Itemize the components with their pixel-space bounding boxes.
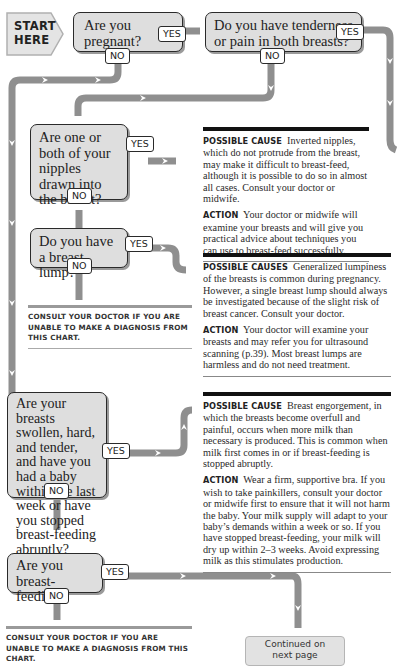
q5-yes-tag[interactable]: YES <box>102 443 130 459</box>
question-breastfeeding[interactable]: Are you breast-feeding? <box>7 553 103 593</box>
consult-rule-top <box>28 305 192 308</box>
action-paragraph: Action Your doctor will examine your bre… <box>203 324 391 371</box>
start-here-marker: START HERE <box>6 12 64 56</box>
cause-paragraph: Possible causes Generalized lumpiness of… <box>203 261 391 319</box>
panel-inverted-nipples: Possible cause Inverted nipples, which d… <box>203 127 369 262</box>
q3-no-tag[interactable]: NO <box>67 188 92 204</box>
panel-rule <box>203 127 369 131</box>
q2-no-tag[interactable]: NO <box>260 48 285 64</box>
cause-paragraph: Possible cause Breast engorgement, in wh… <box>203 400 391 469</box>
action-paragraph: Action Your doctor or midwife will exami… <box>203 209 369 256</box>
q4-no-tag[interactable]: NO <box>67 258 92 274</box>
panel-bottom-rule <box>203 572 391 573</box>
q5-no-tag[interactable]: NO <box>44 483 69 499</box>
connector-q2-no-to-q3 <box>78 60 271 116</box>
panel-rule <box>203 253 391 257</box>
connector-q4-yes <box>149 248 186 270</box>
cause-paragraph: Possible cause Inverted nipples, which d… <box>203 135 369 204</box>
q6-yes-tag[interactable]: YES <box>101 564 129 580</box>
consult-note-1: Consult your doctor if you are unable to… <box>28 305 192 349</box>
q3-yes-tag[interactable]: YES <box>126 136 154 152</box>
q1-no-tag[interactable]: NO <box>105 48 130 64</box>
panel-rule <box>203 392 391 396</box>
action-paragraph: Action Wear a firm, supportive bra. If y… <box>203 474 391 566</box>
consult-note-2: Consult your doctor if you are unable to… <box>6 626 192 665</box>
panel-engorgement: Possible cause Breast engorgement, in wh… <box>203 392 391 573</box>
q4-yes-tag[interactable]: YES <box>125 236 153 252</box>
connector-q5-yes <box>126 410 192 453</box>
q1-yes-tag[interactable]: YES <box>158 26 186 42</box>
start-label: START HERE <box>14 19 56 47</box>
consult-rule-bottom <box>28 348 192 349</box>
panel-bottom-rule <box>203 376 391 377</box>
continued-next-page[interactable]: Continued on next page <box>245 636 345 666</box>
q6-no-tag[interactable]: NO <box>44 588 69 604</box>
panel-breast-lump: Possible causes Generalized lumpiness of… <box>203 253 391 377</box>
q2-yes-tag[interactable]: YES <box>336 24 364 40</box>
connector-q6-yes <box>117 576 298 628</box>
consult-rule-top <box>6 626 192 629</box>
